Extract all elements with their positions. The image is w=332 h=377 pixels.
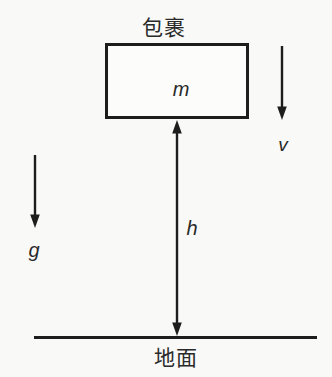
physics-free-fall-diagram: 包裹 m v g h 地面: [0, 0, 332, 377]
package-box: m: [105, 43, 249, 119]
package-label: 包裹: [142, 17, 186, 38]
mass-label: m: [173, 79, 190, 99]
height-arrow-icon: [172, 120, 182, 336]
ground-label: 地面: [154, 347, 198, 368]
velocity-arrow-icon: [277, 46, 287, 120]
gravity-arrow-icon: [30, 155, 40, 228]
gravity-label: g: [28, 240, 39, 260]
velocity-label: v: [278, 135, 288, 154]
height-label: h: [186, 218, 197, 238]
